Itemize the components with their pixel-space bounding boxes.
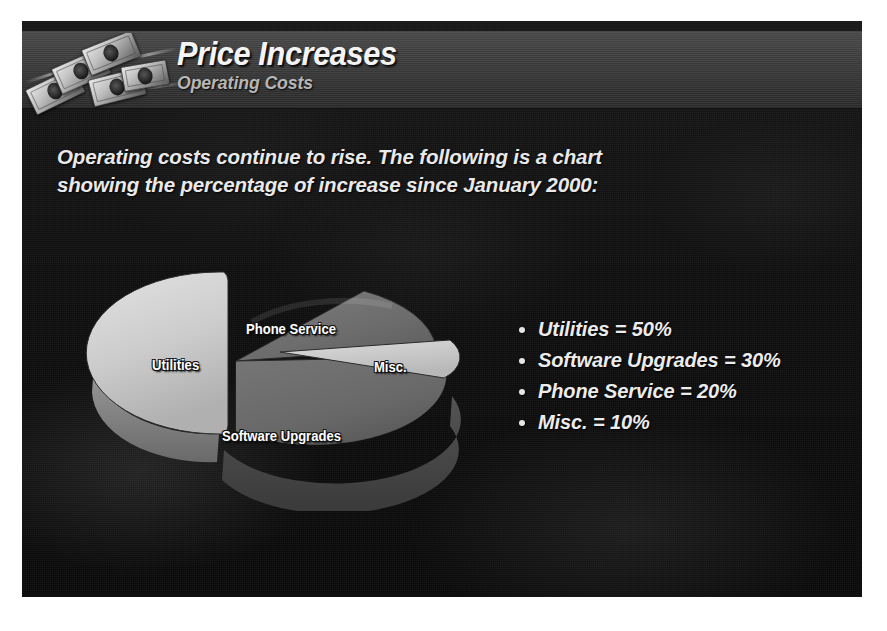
title-block: Price Increases Operating Costs bbox=[177, 37, 413, 94]
slide-header-band: Price Increases Operating Costs bbox=[22, 31, 862, 109]
list-item-label: Phone Service = 20% bbox=[538, 380, 737, 402]
list-item-label: Misc. = 10% bbox=[538, 411, 650, 433]
pie-label-phone-service: Phone Service bbox=[246, 321, 336, 337]
list-item: Misc. = 10% bbox=[517, 407, 781, 438]
pie-label-misc: Misc. bbox=[374, 359, 407, 375]
slide-body-text: Operating costs continue to rise. The fo… bbox=[57, 143, 657, 199]
pie-chart: Utilities Phone Service Software Upgrade… bbox=[52, 236, 492, 511]
list-item: Utilities = 50% bbox=[517, 314, 781, 345]
pie-label-utilities: Utilities bbox=[152, 357, 199, 373]
pie-label-software-upgrades: Software Upgrades bbox=[222, 428, 341, 444]
pie-chart-graphic bbox=[52, 236, 492, 511]
falling-dollar-bills-icon bbox=[24, 33, 184, 125]
percentage-bullet-list: Utilities = 50% Software Upgrades = 30% … bbox=[517, 314, 781, 438]
list-item-label: Utilities = 50% bbox=[538, 318, 672, 340]
bullet-dot-icon bbox=[519, 358, 525, 364]
list-item: Phone Service = 20% bbox=[517, 376, 781, 407]
slide-canvas: Price Increases Operating Costs Operatin… bbox=[22, 21, 862, 597]
slide-title: Price Increases bbox=[177, 37, 397, 72]
list-item: Software Upgrades = 30% bbox=[517, 345, 781, 376]
bullet-dot-icon bbox=[519, 420, 525, 426]
list-item-label: Software Upgrades = 30% bbox=[538, 349, 781, 371]
slide-subtitle: Operating Costs bbox=[177, 73, 397, 94]
bullet-dot-icon bbox=[519, 327, 525, 333]
bullet-dot-icon bbox=[519, 389, 525, 395]
